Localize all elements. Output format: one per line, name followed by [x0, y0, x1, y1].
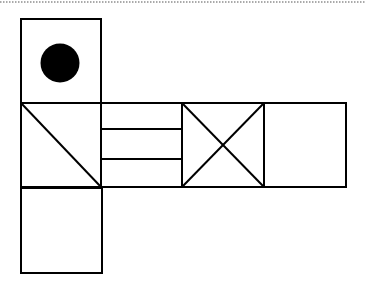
- face-right-2: [264, 103, 346, 187]
- face-left-diagonal: [21, 103, 101, 187]
- filled-circle: [41, 44, 80, 83]
- face-center: [101, 103, 182, 187]
- face-bottom: [21, 188, 102, 273]
- cube-net-diagram: [0, 0, 365, 289]
